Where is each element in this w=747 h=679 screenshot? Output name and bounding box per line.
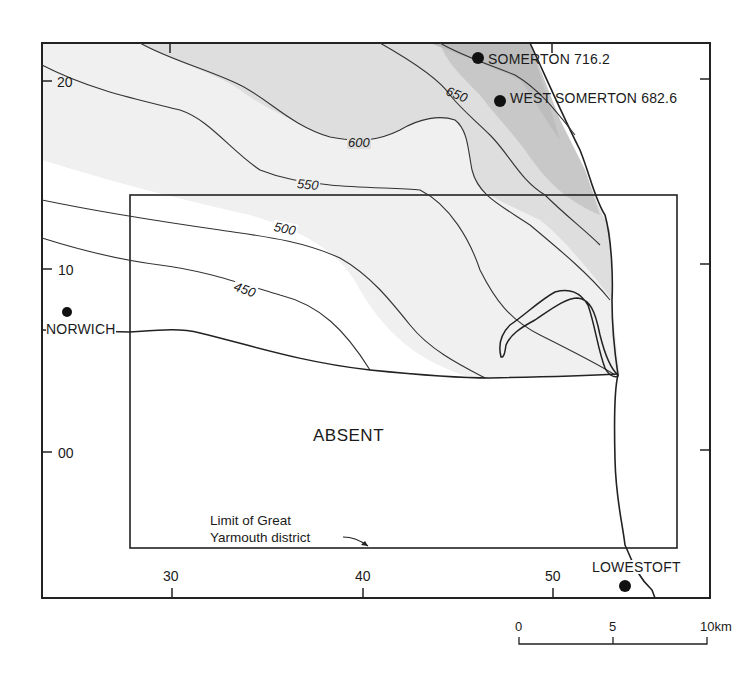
west-somerton-marker-icon bbox=[494, 95, 506, 107]
contour-label-550: 550 bbox=[295, 177, 320, 192]
x-tick-label-50: 50 bbox=[545, 569, 561, 583]
district-note-line2: Yarmouth district bbox=[210, 529, 310, 546]
x-tick-label-40: 40 bbox=[355, 569, 371, 583]
place-label-somerton: SOMERTON 716.2 bbox=[488, 52, 610, 66]
y-tick-label-10: 10 bbox=[58, 263, 74, 277]
absent-area-label: ABSENT bbox=[313, 427, 384, 444]
contour-450 bbox=[42, 238, 370, 370]
y-tick-label-20: 20 bbox=[57, 75, 73, 89]
scale-bar bbox=[519, 637, 707, 644]
norwich-marker-icon bbox=[62, 307, 72, 317]
y-tick-label-00: 00 bbox=[58, 446, 74, 460]
somerton-marker-icon bbox=[472, 52, 484, 64]
place-label-norwich: NORWICH bbox=[46, 322, 116, 336]
scale-label-10km: 10km bbox=[700, 620, 732, 633]
scale-label-0: 0 bbox=[515, 620, 522, 633]
place-label-lowestoft: LOWESTOFT bbox=[592, 560, 681, 574]
x-tick-label-30: 30 bbox=[163, 569, 179, 583]
lowestoft-marker-icon bbox=[619, 580, 631, 592]
contour-label-600: 600 bbox=[347, 136, 371, 149]
district-note-line1: Limit of Great bbox=[210, 512, 310, 529]
district-note: Limit of Great Yarmouth district bbox=[210, 512, 310, 546]
scale-label-5: 5 bbox=[609, 620, 616, 633]
place-label-west-somerton: WEST SOMERTON 682.6 bbox=[510, 91, 677, 105]
